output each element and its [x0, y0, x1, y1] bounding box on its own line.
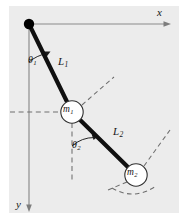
lower-rod-length-label: L2 [113, 126, 123, 139]
theta-two-label: θ2 [72, 140, 81, 152]
pivot-point [24, 19, 34, 29]
double-pendulum-figure: x y L1 L2 θ1 θ2 m1 m2 [0, 0, 187, 224]
theta-one-label: θ1 [28, 55, 37, 67]
upper-rod-length-label: L1 [58, 56, 68, 69]
mass-one-label: m1 [63, 105, 73, 115]
mass-two-label: m2 [127, 168, 137, 178]
figure-canvas [0, 0, 187, 224]
y-axis-label: y [16, 199, 21, 210]
x-axis-label: x [157, 7, 162, 18]
